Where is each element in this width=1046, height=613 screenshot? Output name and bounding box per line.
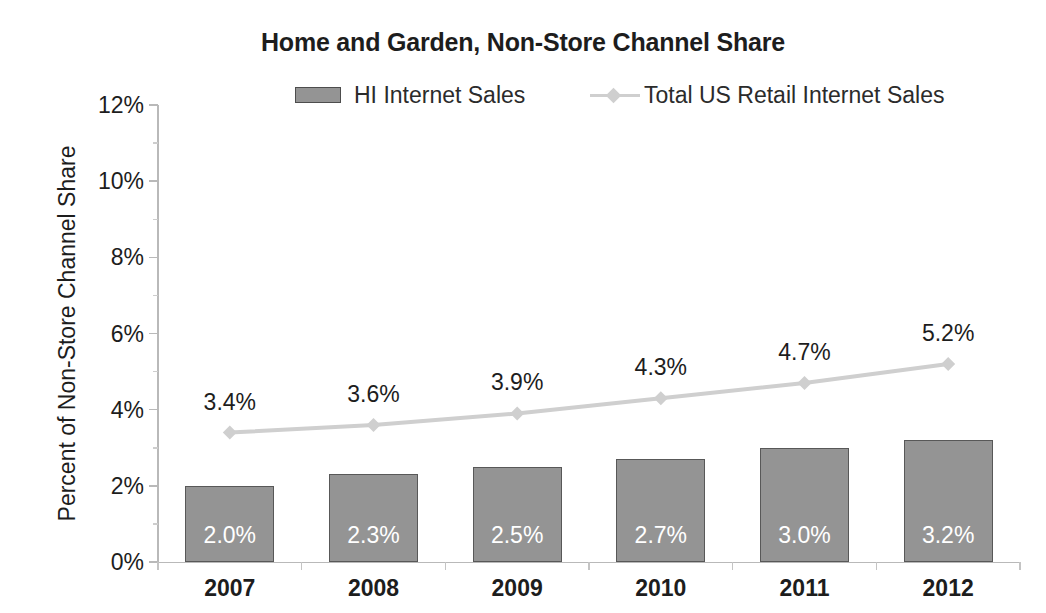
y-axis-tick-label: 12% — [0, 92, 144, 119]
line-value-label: 3.6% — [294, 381, 454, 408]
bar-value-label: 3.0% — [761, 522, 848, 549]
legend-diamond-marker-icon — [606, 88, 622, 104]
y-axis-tick — [149, 257, 158, 259]
bar[interactable]: 3.0% — [760, 448, 849, 562]
y-axis-minor-tick — [153, 295, 158, 297]
chart-container: Home and Garden, Non-Store Channel Share… — [0, 0, 1046, 613]
y-axis-tick-label: 4% — [0, 396, 144, 423]
y-axis-tick-label: 10% — [0, 168, 144, 195]
x-axis-tick — [157, 562, 159, 570]
line-data-point-marker[interactable] — [510, 406, 524, 420]
x-axis-tick — [445, 562, 447, 570]
line-data-point-marker[interactable] — [654, 391, 668, 405]
y-axis-minor-tick — [153, 142, 158, 144]
y-axis-tick-label: 8% — [0, 244, 144, 271]
bar-value-label: 2.0% — [186, 522, 273, 549]
bar-value-label: 2.5% — [474, 522, 561, 549]
y-axis-minor-tick — [153, 447, 158, 449]
line-value-label: 3.4% — [150, 389, 310, 416]
x-axis-tick-label: 2007 — [150, 575, 310, 602]
line-value-label: 4.7% — [725, 339, 885, 366]
y-axis-minor-tick — [153, 371, 158, 373]
line-data-point-marker[interactable] — [223, 426, 237, 440]
chart-title: Home and Garden, Non-Store Channel Share — [0, 28, 1046, 57]
x-axis-tick — [876, 562, 878, 570]
y-axis-tick-label: 6% — [0, 320, 144, 347]
y-axis-tick — [149, 485, 158, 487]
plot-area: 0%2%4%6%8%10%12%200720082009201020112012… — [158, 105, 1020, 562]
bar-value-label: 2.3% — [330, 522, 417, 549]
line-data-point-marker[interactable] — [798, 376, 812, 390]
x-axis-tick — [732, 562, 734, 570]
bar[interactable]: 2.3% — [329, 474, 418, 562]
line-value-label: 5.2% — [868, 320, 1028, 347]
bar[interactable]: 2.5% — [473, 467, 562, 562]
x-axis-tick-label: 2009 — [437, 575, 597, 602]
line-data-point-marker[interactable] — [941, 357, 955, 371]
bar[interactable]: 3.2% — [904, 440, 993, 562]
x-axis-tick-label: 2010 — [581, 575, 741, 602]
x-axis-tick-label: 2008 — [294, 575, 454, 602]
y-axis-tick — [149, 104, 158, 106]
bar-value-label: 3.2% — [905, 522, 992, 549]
x-axis-tick-label: 2012 — [868, 575, 1028, 602]
y-axis-tick-label: 2% — [0, 472, 144, 499]
y-axis-minor-tick — [153, 523, 158, 525]
bar[interactable]: 2.0% — [185, 486, 274, 562]
x-axis-tick — [1019, 562, 1021, 570]
x-axis-tick — [301, 562, 303, 570]
line-data-point-marker[interactable] — [367, 418, 381, 432]
bar-value-label: 2.7% — [617, 522, 704, 549]
line-value-label: 3.9% — [437, 369, 597, 396]
legend-line-swatch-icon — [590, 87, 640, 103]
x-axis-tick — [588, 562, 590, 570]
x-axis-tick-label: 2011 — [725, 575, 885, 602]
y-axis-minor-tick — [153, 219, 158, 221]
line-value-label: 4.3% — [581, 354, 741, 381]
y-axis-tick — [149, 180, 158, 182]
legend-bar-swatch-icon — [295, 87, 341, 103]
y-axis-tick-label: 0% — [0, 549, 144, 576]
bar[interactable]: 2.7% — [616, 459, 705, 562]
y-axis-tick — [149, 333, 158, 335]
